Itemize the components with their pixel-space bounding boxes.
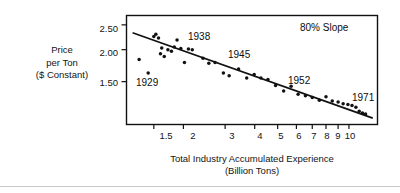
data-point (166, 48, 170, 52)
experience-curve-figure: Price per Ton ($ Constant) 2.50 2.00 1.5… (0, 0, 400, 193)
data-point (304, 94, 308, 98)
x-axis-title-line-1: Total Industry Accumulated Experience (126, 153, 378, 165)
x-axis-title: Total Industry Accumulated Experience (B… (126, 153, 378, 177)
data-point (282, 89, 286, 93)
data-point (336, 100, 340, 104)
data-point (160, 46, 164, 50)
data-point (227, 74, 231, 78)
data-point (159, 52, 163, 56)
data-point (183, 61, 187, 65)
data-point (157, 36, 161, 40)
data-point (361, 111, 365, 115)
data-point (289, 84, 293, 88)
data-point (364, 112, 368, 116)
data-point (154, 32, 158, 36)
data-point (311, 96, 315, 100)
data-point (201, 57, 205, 61)
data-point (330, 99, 334, 103)
x-axis-title-line-2: (Billion Tons) (126, 165, 378, 177)
trend-line (133, 33, 373, 118)
data-point (350, 104, 354, 108)
data-point (137, 58, 141, 62)
data-point (163, 55, 167, 59)
data-point (324, 95, 328, 99)
data-point (341, 102, 345, 106)
data-point (357, 109, 361, 113)
data-point (354, 106, 358, 110)
data-point (213, 61, 217, 65)
data-point (222, 71, 226, 75)
data-point (170, 50, 174, 54)
data-point (237, 67, 241, 71)
plot-frame (127, 16, 378, 125)
page-bottom-rule (0, 186, 400, 187)
data-point (187, 47, 191, 51)
data-point (259, 76, 263, 80)
data-point (179, 47, 183, 51)
data-point (252, 73, 256, 77)
data-point (318, 98, 322, 102)
data-point (245, 76, 249, 80)
data-point (296, 92, 300, 96)
data-point (346, 103, 350, 107)
data-point (173, 45, 177, 49)
data-point (207, 61, 211, 65)
data-point (191, 48, 195, 52)
data-point (175, 38, 179, 42)
data-point (274, 84, 278, 88)
data-point (266, 78, 270, 82)
data-point (146, 71, 150, 75)
